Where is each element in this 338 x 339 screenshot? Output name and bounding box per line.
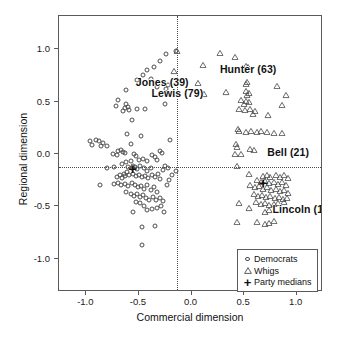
data-point-whig — [237, 151, 244, 157]
legend-item-whigs: Whigs — [241, 265, 313, 276]
data-point-democrat — [113, 103, 118, 108]
data-point-democrat — [154, 189, 159, 194]
data-point-democrat — [166, 165, 171, 170]
data-point-whig — [273, 83, 280, 89]
data-point-democrat — [110, 152, 115, 157]
data-point-democrat — [160, 150, 165, 155]
data-point-whig — [246, 171, 253, 177]
legend: Democrats Whigs + Party medians — [237, 249, 318, 292]
data-point-democrat — [165, 183, 170, 188]
data-point-whig — [173, 47, 180, 53]
data-point-democrat — [121, 109, 126, 114]
data-point-whig — [285, 175, 292, 181]
data-point-whig — [235, 128, 242, 134]
data-point-democrat — [111, 164, 116, 169]
data-point-democrat — [140, 242, 145, 247]
annotation-label: Jones (39) — [136, 76, 189, 88]
data-point-whig — [235, 200, 242, 206]
data-point-democrat — [139, 134, 144, 139]
y-tick — [54, 205, 58, 206]
x-tick — [191, 291, 192, 295]
circle-marker-icon — [241, 257, 254, 262]
legend-label-whigs: Whigs — [254, 266, 279, 276]
triangle-marker-icon — [241, 267, 254, 274]
x-tick-label: -0.5 — [130, 296, 146, 307]
x-tick-label: 0.5 — [237, 296, 250, 307]
data-point-democrat — [164, 51, 169, 56]
y-tick-label: -1.0 — [0, 252, 50, 263]
data-point-democrat — [169, 172, 174, 177]
data-point-democrat — [154, 158, 159, 163]
x-tick — [243, 291, 244, 295]
data-point-democrat — [148, 165, 153, 170]
data-point-democrat — [99, 143, 104, 148]
plus-marker-icon: + — [241, 276, 254, 289]
x-tick — [138, 291, 139, 295]
data-point-whig — [250, 147, 257, 153]
data-point-whig — [243, 81, 250, 87]
data-point-democrat — [130, 209, 135, 214]
annotation-label: Lewis (79) — [152, 87, 204, 99]
vertical-reference-line — [177, 16, 178, 290]
data-point-whig — [223, 89, 230, 95]
legend-item-democrats: Democrats — [241, 254, 313, 265]
data-point-whig — [249, 111, 256, 117]
data-point-democrat — [163, 101, 168, 106]
data-point-democrat — [159, 204, 164, 209]
x-tick — [85, 291, 86, 295]
x-tick-label: 1.0 — [289, 296, 302, 307]
data-point-democrat — [124, 88, 129, 93]
x-axis-label: Commercial dimension — [58, 311, 322, 323]
data-point-democrat — [114, 175, 119, 180]
y-tick — [54, 101, 58, 102]
x-tick-label: 0.0 — [184, 296, 197, 307]
data-point-democrat — [120, 162, 125, 167]
legend-label-party-medians: Party medians — [254, 277, 312, 287]
data-point-democrat — [161, 167, 166, 172]
annotation-label: Hunter (63) — [220, 63, 277, 75]
data-point-democrat — [105, 165, 110, 170]
data-point-democrat — [128, 141, 133, 146]
data-point-democrat — [125, 132, 130, 137]
data-point-democrat — [115, 97, 120, 102]
data-point-whig — [278, 102, 285, 108]
data-point-democrat — [162, 209, 167, 214]
data-point-whig — [200, 62, 207, 68]
data-point-democrat — [140, 225, 145, 230]
data-point-whig — [278, 130, 285, 136]
data-point-whig — [253, 219, 260, 225]
data-point-whig — [270, 130, 277, 136]
x-tick-label: -1.0 — [77, 296, 93, 307]
data-point-whig — [233, 162, 240, 168]
data-point-whig — [270, 218, 277, 224]
y-tick — [54, 153, 58, 154]
data-point-democrat — [105, 143, 110, 148]
data-point-democrat — [161, 199, 166, 204]
data-point-whig — [233, 219, 240, 225]
data-point-whig — [265, 112, 272, 118]
data-point-democrat — [143, 107, 148, 112]
data-point-democrat — [167, 178, 172, 183]
data-point-whig — [231, 54, 238, 60]
party-median-marker: + — [259, 175, 268, 190]
scatter-plot-figure: ++Jones (39)Lewis (79)Hunter (63)Bell (2… — [0, 0, 338, 339]
annotation-label: Bell (21) — [267, 146, 309, 158]
y-tick-label: 0.0 — [0, 148, 50, 159]
data-point-whig — [283, 92, 290, 98]
party-median-marker: + — [128, 160, 137, 175]
data-point-whig — [170, 68, 177, 74]
data-point-democrat — [134, 107, 139, 112]
y-tick-label: 1.0 — [0, 43, 50, 54]
y-tick — [54, 48, 58, 49]
data-point-democrat — [157, 177, 162, 182]
data-point-democrat — [98, 183, 103, 188]
legend-label-democrats: Democrats — [254, 254, 298, 264]
legend-item-party-medians: + Party medians — [241, 277, 313, 288]
data-point-democrat — [173, 168, 178, 173]
data-point-democrat — [152, 224, 157, 229]
y-tick-label: -0.5 — [0, 200, 50, 211]
data-point-democrat — [151, 65, 156, 70]
data-point-whig — [233, 144, 240, 150]
data-point-democrat — [129, 117, 134, 122]
y-tick — [54, 258, 58, 259]
